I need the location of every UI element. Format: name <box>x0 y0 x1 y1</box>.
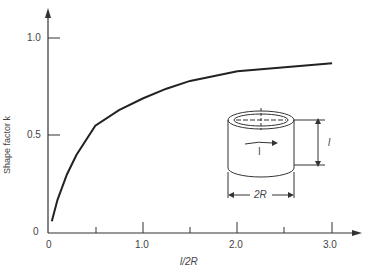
plot-area <box>0 0 370 275</box>
x-tick-label: 1.0 <box>135 239 149 250</box>
y-tick-label: 0 <box>33 226 39 237</box>
current-label: I <box>258 146 261 157</box>
y-axis-label: Shape factor k <box>2 116 12 174</box>
y-tick-label: 0.5 <box>27 129 41 140</box>
y-tick-label: 1.0 <box>27 32 41 43</box>
dimension-2r-label: 2R <box>254 189 267 200</box>
x-axis-label: l/2R <box>180 256 198 267</box>
x-tick-label: 3.0 <box>323 239 337 250</box>
chart: 1.0 0.5 0 0 1.0 2.0 3.0 l/2R Shape facto… <box>0 0 370 275</box>
x-axis-arrow-icon <box>352 230 362 236</box>
x-tick-label: 0 <box>46 239 52 250</box>
k-curve <box>52 63 332 221</box>
cylinder-diagram <box>228 108 325 198</box>
x-tick-label: 2.0 <box>229 239 243 250</box>
y-axis-arrow-icon <box>45 8 51 18</box>
dimension-l-label: l <box>328 137 330 148</box>
